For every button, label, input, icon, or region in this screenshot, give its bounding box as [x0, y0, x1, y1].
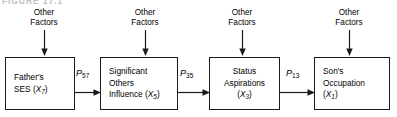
arrow-p13-status-aspirations-to-sons-occupation	[280, 88, 315, 97]
arrow-other-factors-to-fathers-ses	[40, 30, 49, 56]
node-line-2: Aspirations	[224, 78, 265, 88]
path-coefficient-p57: P57	[76, 68, 90, 78]
figure-caption: FIGURE 17.1	[2, 0, 63, 6]
node-line-1: Father's	[14, 72, 44, 82]
node-line-1: Status	[233, 66, 257, 76]
other-factors-label-4: Other Factors	[317, 8, 381, 28]
other-factors-label-2: Other Factors	[113, 8, 177, 28]
other-factors-line1: Other	[210, 8, 274, 18]
node-sons-occupation-label: Son's Occupation (X1)	[323, 66, 365, 100]
node-sons-occupation[interactable]: Son's Occupation (X1)	[314, 57, 390, 110]
other-factors-line2: Factors	[12, 18, 76, 28]
other-factors-line2: Factors	[210, 18, 274, 28]
node-significant-others-influence[interactable]: Significant Others Influence (X5)	[100, 57, 178, 110]
node-line-2: Others	[109, 78, 134, 88]
path-subscript: 13	[292, 72, 300, 79]
other-factors-line1: Other	[113, 8, 177, 18]
node-line-3: Influence	[109, 89, 143, 99]
path-subscript: 35	[186, 72, 194, 79]
node-subscript: 5	[153, 93, 157, 100]
arrow-other-factors-to-sons-occupation	[345, 30, 354, 56]
node-line-1: Son's	[323, 66, 344, 76]
node-significant-others-influence-label: Significant Others Influence (X5)	[109, 66, 160, 100]
path-coefficient-p35: P35	[180, 68, 194, 78]
arrow-p35-significant-others-influence-to-status-aspirations	[178, 88, 210, 97]
node-line-2: SES	[14, 84, 31, 94]
other-factors-line1: Other	[317, 8, 381, 18]
arrow-other-factors-to-significant-others-influence	[141, 30, 150, 56]
path-coefficient-p13: P13	[286, 68, 300, 78]
other-factors-label-1: Other Factors	[12, 8, 76, 28]
path-subscript: 57	[82, 72, 90, 79]
other-factors-line2: Factors	[317, 18, 381, 28]
other-factors-label-3: Other Factors	[210, 8, 274, 28]
other-factors-line1: Other	[12, 8, 76, 18]
node-line-1: Significant	[109, 66, 147, 76]
path-diagram-canvas: FIGURE 17.1 Other Factors Other Factors …	[0, 0, 397, 117]
node-status-aspirations-label: Status Aspirations (X3)	[224, 66, 265, 100]
node-subscript: 3	[245, 93, 249, 100]
arrow-p57-fathers-ses-to-significant-others-influence	[75, 88, 101, 97]
other-factors-line2: Factors	[113, 18, 177, 28]
node-fathers-ses-label: Father's SES (X7)	[14, 72, 48, 95]
node-line-2: Occupation	[323, 78, 365, 88]
node-status-aspirations[interactable]: Status Aspirations (X3)	[209, 57, 280, 110]
node-subscript: 1	[331, 93, 335, 100]
node-fathers-ses[interactable]: Father's SES (X7)	[5, 57, 75, 110]
node-subscript: 7	[41, 88, 45, 95]
arrow-other-factors-to-status-aspirations	[238, 30, 247, 56]
